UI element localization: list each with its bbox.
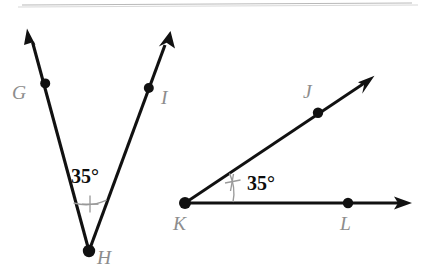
ray-kl <box>185 196 412 209</box>
ray-hg-arrowhead <box>24 29 36 46</box>
angle-jkl-group: J K L 35° <box>172 76 412 234</box>
point-label-k: K <box>172 213 187 234</box>
point-label-j: J <box>303 81 313 102</box>
point-label-l: L <box>339 213 351 234</box>
angle-ghi-group: G I H 35° <box>12 29 175 269</box>
page-top-rule <box>18 3 418 7</box>
angle-measure-jkl: 35° <box>247 172 275 194</box>
ray-hg-line <box>33 42 90 251</box>
top-rule-line <box>22 3 412 5</box>
vertex-dot-h <box>83 245 95 257</box>
angle-measure-ghi: 35° <box>71 165 99 187</box>
point-dot-l <box>343 198 353 208</box>
point-dot-g <box>40 78 50 88</box>
ray-hi-line <box>89 45 165 251</box>
point-dot-i <box>144 83 154 93</box>
vertex-dot-k <box>179 197 191 209</box>
angle-mark-k <box>225 173 241 202</box>
point-label-g: G <box>12 82 26 103</box>
ray-hi-arrowhead <box>159 31 175 49</box>
ray-hi <box>89 31 175 251</box>
geometry-figure: G I H 35° <box>0 0 432 279</box>
geometry-canvas: G I H 35° <box>0 0 432 279</box>
point-label-i: I <box>160 87 169 108</box>
point-label-h: H <box>96 247 112 268</box>
ray-kj <box>185 76 375 203</box>
point-dot-j <box>313 108 323 118</box>
ray-hg <box>24 29 89 252</box>
